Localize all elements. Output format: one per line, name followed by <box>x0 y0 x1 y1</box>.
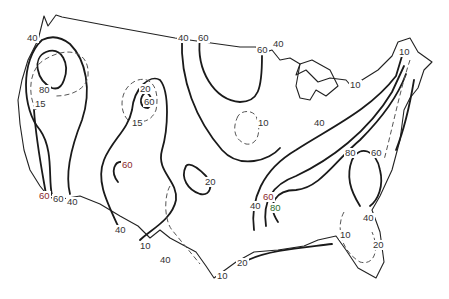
contour-label: 40 <box>362 213 375 223</box>
contour-60-plains <box>199 38 262 102</box>
contour-label: 60 <box>143 97 156 107</box>
contour-80-east <box>273 74 406 222</box>
contour-label: 60 <box>52 194 65 204</box>
contour-map: 40 80 15 20 60 15 60 40 60 60 40 10 10 1… <box>0 0 449 299</box>
contour-label: 80 <box>38 85 51 95</box>
contour-label: 10 <box>139 241 152 251</box>
contour-label: 15 <box>34 99 47 109</box>
contour-label: 10 <box>216 271 229 281</box>
contour-label: 40 <box>249 201 262 211</box>
contour-label: 60 <box>121 160 134 170</box>
us-outline <box>18 15 432 278</box>
contour-label: 10 <box>349 80 362 90</box>
contour-label: 15 <box>131 118 144 128</box>
contour-label: 40 <box>66 197 79 207</box>
contour-label: 60 <box>262 192 275 202</box>
contour-label: 60 <box>197 33 210 43</box>
contour-label: 20 <box>204 177 217 187</box>
contour-label: 40 <box>313 118 326 128</box>
contour-label: 60 <box>38 191 51 201</box>
contour-10-plains <box>235 112 259 145</box>
contour-label: 80 <box>269 203 282 213</box>
contour-label: 40 <box>26 33 39 43</box>
contour-rockies <box>101 79 176 240</box>
contour-label: 10 <box>398 47 411 57</box>
contour-label: 20 <box>139 84 152 94</box>
contour-label: 60 <box>256 45 269 55</box>
contour-10-central <box>166 186 200 264</box>
contour-80-west <box>37 51 66 89</box>
contour-label: 40 <box>159 255 172 265</box>
contour-label: 60 <box>370 148 383 158</box>
contour-label: 40 <box>177 33 190 43</box>
contour-label: 40 <box>114 225 127 235</box>
contour-label: 10 <box>257 118 270 128</box>
contour-label: 20 <box>236 258 249 268</box>
great-lakes <box>296 60 338 100</box>
contour-label: 20 <box>372 240 385 250</box>
contour-label: 80 <box>344 148 357 158</box>
contour-label: 10 <box>339 230 352 240</box>
contour-60-west <box>34 110 46 194</box>
contour-label: 40 <box>272 39 285 49</box>
contour-40-se <box>349 151 381 206</box>
